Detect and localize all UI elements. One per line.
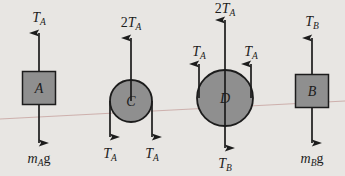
force-label-d-up-right: TA: [244, 44, 258, 61]
bodies-layer: [23, 70, 329, 126]
body-label-b: B: [308, 84, 317, 99]
diagram-canvas: ATAmAgC2TATATAD2TATATATBBTBmBg: [0, 0, 345, 176]
force-arrows-layer: [39, 20, 312, 148]
body-label-c: C: [126, 94, 136, 109]
force-label-c-down-left: TA: [103, 146, 117, 163]
force-label-a-up: TA: [32, 10, 46, 27]
body-label-d: D: [219, 91, 230, 106]
force-label-c-down-right: TA: [145, 146, 159, 163]
force-label-d-down: TB: [218, 156, 232, 173]
force-label-b-up: TB: [305, 14, 319, 31]
force-labels-layer: ATAmAgC2TATATAD2TATATATBBTBmBg: [28, 1, 324, 173]
body-label-a: A: [34, 81, 44, 96]
free-body-diagram: ATAmAgC2TATATAD2TATATATBBTBmBg: [0, 0, 345, 176]
force-label-d-up-center: 2TA: [215, 1, 236, 18]
force-label-b-down: mBg: [301, 151, 324, 168]
force-label-d-up-left: TA: [192, 44, 206, 61]
force-label-a-down: mAg: [28, 151, 51, 168]
force-label-c-up: 2TA: [121, 15, 142, 32]
